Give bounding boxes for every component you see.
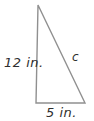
triangle-figure: 12 in. c 5 in. (0, 0, 94, 121)
left-leg-length-label: 12 in. (4, 56, 44, 69)
bottom-leg-length-label: 5 in. (46, 106, 77, 119)
hypotenuse-label: c (72, 51, 79, 63)
